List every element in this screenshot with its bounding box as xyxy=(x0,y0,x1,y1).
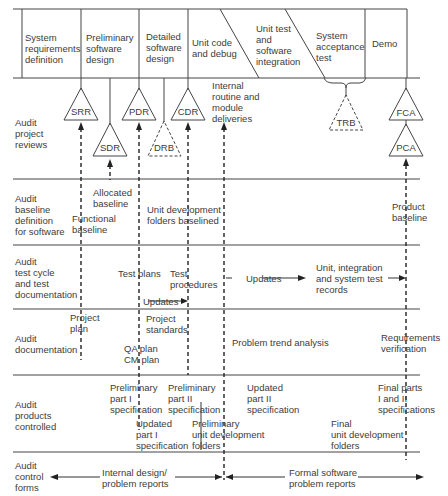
phase-unit-code-debug: Unit code and debug xyxy=(192,37,237,59)
requirements-verification: Requirements verification xyxy=(381,332,440,354)
unit-dev-folders-baselined: Unit development folders baselined xyxy=(147,204,221,226)
project-plan: Project plan xyxy=(70,312,100,334)
updates-label-1: Updates xyxy=(143,296,178,307)
updates-label-2: Updates xyxy=(246,273,281,284)
qa-cm-plan: QA plan CM plan xyxy=(124,343,159,365)
prelim-part1-spec: Preliminary part I specification xyxy=(110,382,162,415)
test-procedures: Test procedures xyxy=(170,268,218,290)
functional-baseline: Functional baseline xyxy=(72,213,116,235)
problem-trend-analysis: Problem trend analysis xyxy=(232,337,329,348)
review-srr: SRR xyxy=(61,106,101,117)
row-baseline-definition: Audit baseline definition for software xyxy=(15,193,65,237)
updated-part2-spec: Updated part II specification xyxy=(247,382,299,415)
product-baseline: Product baseline xyxy=(392,201,427,223)
project-standards: Project standards xyxy=(146,313,188,335)
allocated-baseline: Allocated baseline xyxy=(93,187,132,209)
review-pdr: PDR xyxy=(119,106,159,117)
row-test-cycle: Audit test cycle and test documentation xyxy=(15,256,77,300)
phase-system-acceptance: System acceptance test xyxy=(316,30,365,63)
phase-system-requirements: System requirements definition xyxy=(25,32,80,65)
prelim-unit-dev-folders: Preliminary unit development folders xyxy=(192,418,264,451)
row-products-controlled: Audit products controlled xyxy=(15,399,56,432)
row-project-reviews: Audit project reviews xyxy=(15,117,47,150)
prelim-part2-spec: Preliminary part II specification xyxy=(168,382,220,415)
formal-problem-reports: Formal software problem reports xyxy=(289,467,357,489)
review-cdr: CDR xyxy=(168,106,208,117)
phase-preliminary-design: Preliminary software design xyxy=(86,32,134,65)
updated-part1-spec: Updated part I specification xyxy=(136,418,188,451)
review-pca: PCA xyxy=(386,142,426,153)
review-trb: TRB xyxy=(326,117,366,128)
phase-detailed-design: Detailed software design xyxy=(146,31,182,64)
final-parts-spec: Final parts I and II specifications xyxy=(378,382,435,415)
internal-problem-reports: Internal design/ problem reports xyxy=(102,467,169,489)
phase-unit-test-integration: Unit test and software integration xyxy=(256,23,300,67)
test-records: Unit, integration and system test record… xyxy=(316,262,383,295)
final-unit-dev-folders: Final unit development folders xyxy=(331,418,403,451)
phase-demo: Demo xyxy=(372,38,397,49)
review-fca: FCA xyxy=(386,107,426,118)
test-plans: Test plans xyxy=(118,268,161,279)
review-sdr: SDR xyxy=(90,142,130,153)
internal-deliveries: Internal routine and module deliveries xyxy=(212,80,260,124)
row-documentation: Audit documentation xyxy=(15,333,77,355)
row-control-forms: Audit control forms xyxy=(15,460,44,493)
review-drb: DRB xyxy=(144,142,184,153)
